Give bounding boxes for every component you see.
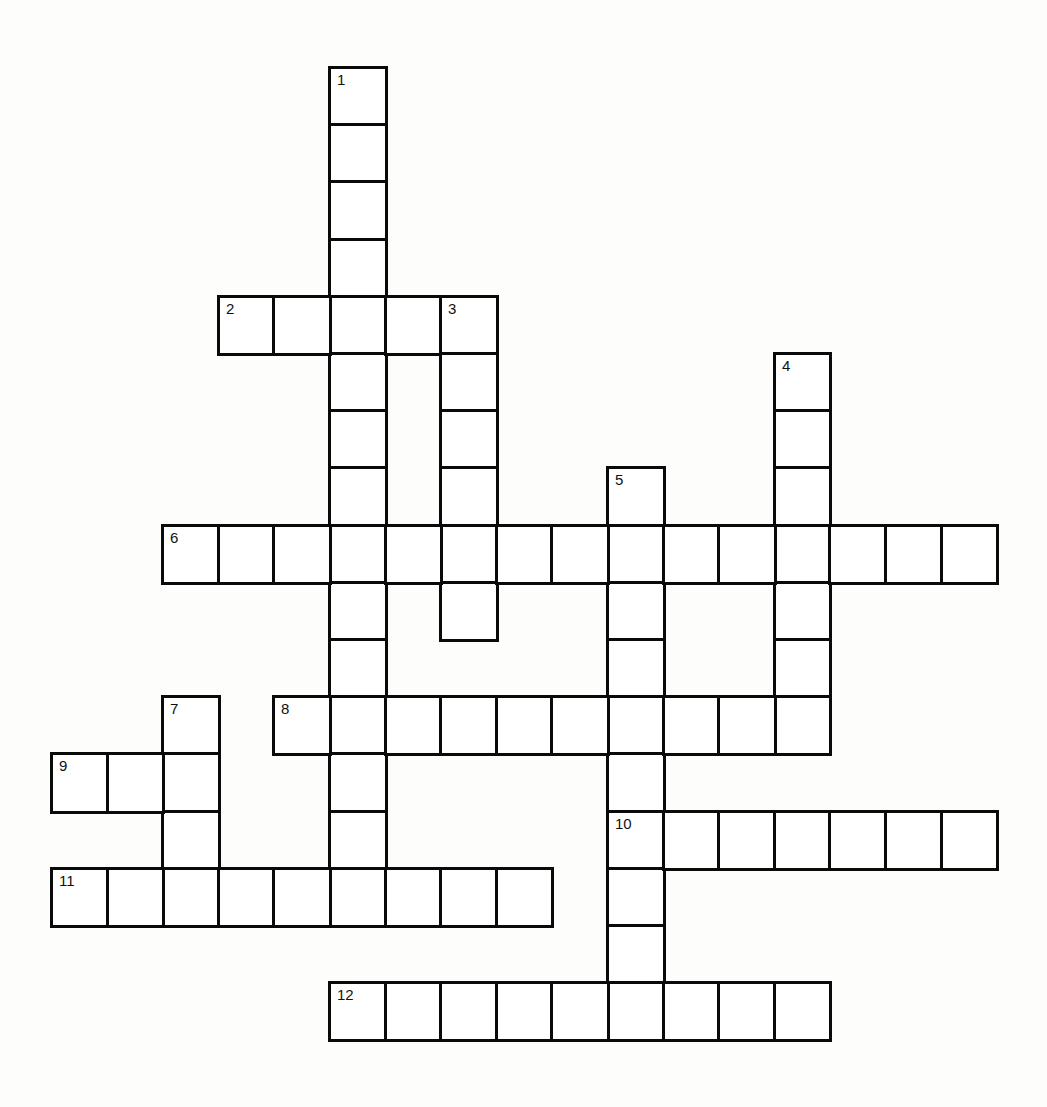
crossword-cell[interactable] [606,981,666,1042]
crossword-cell[interactable] [272,867,332,928]
crossword-cell[interactable] [439,524,499,585]
crossword-cell[interactable] [717,981,777,1042]
crossword-cell[interactable] [272,295,332,356]
crossword-cell[interactable] [439,466,499,528]
crossword-cell[interactable]: 9 [50,752,110,814]
clue-number: 9 [59,758,67,773]
crossword-cell[interactable] [495,524,554,585]
crossword-cell[interactable] [328,638,388,699]
crossword-cell[interactable] [384,524,443,585]
crossword-cell[interactable] [439,695,499,756]
crossword-cell[interactable] [606,524,666,585]
crossword-cell[interactable] [384,867,443,928]
crossword-cell[interactable] [606,695,666,756]
crossword-cell[interactable] [328,810,388,871]
crossword-cell[interactable]: 11 [50,867,110,928]
crossword-cell[interactable] [161,752,221,814]
crossword-cell[interactable] [550,981,610,1042]
clue-number: 10 [615,816,632,831]
crossword-cell[interactable] [328,581,388,642]
crossword-cell[interactable]: 6 [161,524,221,585]
crossword-cell[interactable] [662,695,721,756]
crossword-cell[interactable] [328,180,388,242]
crossword-cell[interactable] [328,695,388,756]
crossword-cell[interactable]: 12 [328,981,388,1042]
crossword-cell[interactable]: 3 [439,295,499,356]
crossword-cell[interactable] [217,867,276,928]
crossword-cell[interactable] [606,638,666,699]
crossword-cell[interactable] [940,524,999,585]
crossword-cell[interactable] [384,295,443,356]
clue-number: 4 [782,358,790,373]
crossword-cell[interactable] [106,867,165,928]
crossword-cell[interactable] [828,810,888,871]
clue-number: 8 [281,701,289,716]
crossword-cell[interactable]: 4 [773,352,832,413]
clue-number: 11 [59,873,75,888]
crossword-cell[interactable] [940,810,999,871]
crossword-cell[interactable]: 7 [161,695,221,756]
crossword-cell[interactable] [662,524,721,585]
crossword-grid: 123451067891112 [0,0,1047,1107]
crossword-cell[interactable] [606,752,666,814]
clue-number: 7 [170,701,178,716]
crossword-cell[interactable] [606,924,666,985]
crossword-cell[interactable] [161,810,221,871]
crossword-cell[interactable] [328,352,388,413]
crossword-cell[interactable] [328,752,388,814]
clue-number: 1 [337,72,345,87]
crossword-cell[interactable] [328,524,388,585]
crossword-cell[interactable] [717,524,777,585]
crossword-cell[interactable] [773,695,832,756]
crossword-cell[interactable] [495,981,554,1042]
crossword-cell[interactable] [328,238,388,299]
crossword-cell[interactable] [773,524,832,585]
crossword-cell[interactable] [717,810,777,871]
crossword-cell[interactable] [550,695,610,756]
crossword-cell[interactable]: 1 [328,66,388,127]
crossword-cell[interactable] [773,466,832,528]
crossword-cell[interactable]: 2 [217,295,276,356]
crossword-cell[interactable] [773,638,832,699]
crossword-cell[interactable] [717,695,777,756]
crossword-cell[interactable] [662,810,721,871]
crossword-cell[interactable] [217,524,276,585]
crossword-cell[interactable] [272,524,332,585]
crossword-cell[interactable] [439,352,499,413]
crossword-cell[interactable] [828,524,888,585]
crossword-cell[interactable] [884,524,944,585]
crossword-cell[interactable] [161,867,221,928]
crossword-cell[interactable] [328,409,388,470]
crossword-cell[interactable] [328,295,388,356]
crossword-cell[interactable] [662,981,721,1042]
crossword-cell[interactable] [328,466,388,528]
crossword-cell[interactable] [495,695,554,756]
crossword-cell[interactable] [328,867,388,928]
crossword-cell[interactable] [884,810,944,871]
crossword-cell[interactable]: 10 [606,810,666,871]
clue-number: 2 [226,301,234,316]
crossword-cell[interactable] [439,409,499,470]
crossword-cell[interactable] [606,581,666,642]
crossword-cell[interactable] [328,123,388,184]
crossword-cell[interactable] [439,581,499,642]
clue-number: 5 [615,472,623,487]
crossword-cell[interactable]: 5 [606,466,666,528]
crossword-cell[interactable] [384,695,443,756]
crossword-cell[interactable] [773,810,832,871]
crossword-cell[interactable] [106,752,165,814]
clue-number: 3 [448,301,456,316]
crossword-cell[interactable] [773,581,832,642]
crossword-cell[interactable] [439,981,499,1042]
crossword-cell[interactable] [439,867,499,928]
clue-number: 12 [337,987,354,1002]
crossword-cell[interactable]: 8 [272,695,332,756]
crossword-cell[interactable] [495,867,554,928]
crossword-cell[interactable] [384,981,443,1042]
crossword-cell[interactable] [773,409,832,470]
crossword-cell[interactable] [550,524,610,585]
crossword-cell[interactable] [606,867,666,928]
clue-number: 6 [170,530,178,545]
crossword-cell[interactable] [773,981,832,1042]
